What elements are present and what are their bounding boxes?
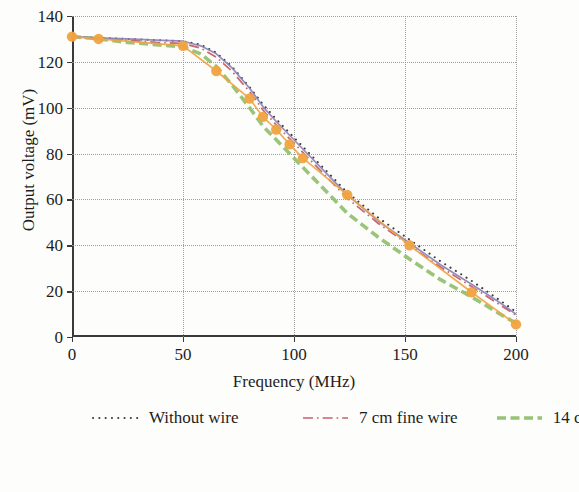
data-point-marker: [466, 287, 476, 297]
y-tick-label: 100: [38, 99, 64, 116]
plot-area: 020406080100120140 050100150200: [72, 16, 516, 337]
x-tick-mark: [294, 337, 295, 342]
legend-swatch-icon: [302, 411, 349, 425]
data-point-marker: [342, 190, 352, 200]
data-point-marker: [258, 112, 268, 122]
data-series-layer: [72, 16, 516, 337]
chart-legend: Without wire7 cm fine wire14 cm fine wir…: [92, 404, 552, 432]
y-tick-label: 140: [38, 8, 64, 25]
data-point-marker: [67, 31, 77, 41]
gridline-vertical: [516, 16, 517, 337]
y-tick-label: 60: [46, 191, 63, 208]
data-point-marker: [93, 34, 103, 44]
y-tick-label: 120: [38, 53, 64, 70]
y-tick-label: 0: [55, 329, 64, 346]
y-axis-title: Output voltage (mV): [19, 35, 39, 285]
data-point-marker: [404, 240, 414, 250]
legend-swatch-icon: [496, 411, 543, 425]
data-point-marker: [284, 139, 294, 149]
data-point-marker: [511, 319, 521, 329]
y-tick-label: 80: [46, 145, 63, 162]
series-line: [72, 37, 516, 314]
x-tick-mark: [516, 337, 517, 342]
series-line: [72, 37, 516, 316]
legend-item-label: Without wire: [149, 408, 239, 428]
x-axis-title: Frequency (MHz): [72, 372, 516, 392]
x-tick-mark: [405, 337, 406, 342]
legend-item-label: 7 cm fine wire: [359, 408, 458, 428]
y-tick-label: 20: [46, 283, 63, 300]
chart-figure: Output voltage (mV) 020406080100120140 0…: [0, 0, 579, 492]
data-point-marker: [211, 66, 221, 76]
x-tick-label: 0: [68, 346, 77, 363]
y-tick-label: 40: [46, 237, 63, 254]
data-point-marker: [244, 93, 254, 103]
legend-item-label: 14 cm fine wire: [553, 408, 579, 428]
data-point-marker: [298, 153, 308, 163]
x-tick-mark: [183, 337, 184, 342]
x-tick-mark: [72, 337, 73, 342]
series-7-cm-thick-wire: [72, 37, 516, 314]
legend-swatch-icon: [92, 411, 139, 425]
series-7-cm-fine-wire: [72, 37, 516, 316]
series-line: [72, 37, 516, 324]
data-point-marker: [271, 124, 281, 134]
series-line: [72, 37, 516, 325]
x-tick-label: 150: [392, 346, 418, 363]
legend-item-without-wire[interactable]: Without wire: [92, 408, 264, 428]
x-tick-label: 50: [175, 346, 192, 363]
x-tick-label: 200: [503, 346, 529, 363]
x-tick-label: 100: [281, 346, 307, 363]
legend-item-7-cm-fine-wire[interactable]: 7 cm fine wire: [302, 408, 458, 428]
series-14-cm-fine-wire: [72, 37, 516, 324]
data-point-marker: [178, 41, 188, 51]
legend-item-14-cm-fine-wire[interactable]: 14 cm fine wire: [496, 408, 579, 428]
